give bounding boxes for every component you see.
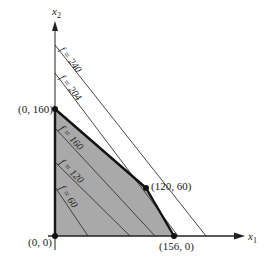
vertex-label-120-60: (120, 60) — [151, 180, 192, 193]
vertex-120-60 — [143, 185, 149, 191]
vertex-label-156-0: (156, 0) — [159, 240, 194, 253]
vertex-label-0-160: (0, 160) — [18, 103, 53, 116]
objective-label-f240: f = 240 — [57, 44, 84, 74]
vertex-0-160 — [52, 106, 58, 112]
x2-axis-arrow-icon — [52, 21, 58, 31]
x1-axis-arrow-icon — [234, 233, 245, 240]
x1-axis-label: x1 — [247, 230, 257, 245]
vertex-156-0 — [171, 233, 177, 239]
vertex-label-0-0: (0, 0) — [28, 236, 52, 249]
vertex-0-0 — [52, 233, 58, 239]
feasible-region-diagram: x2 x1 (0, 0) (0, 160) (120, 60) (156, 0)… — [0, 0, 279, 262]
x2-axis-label: x2 — [51, 5, 61, 20]
